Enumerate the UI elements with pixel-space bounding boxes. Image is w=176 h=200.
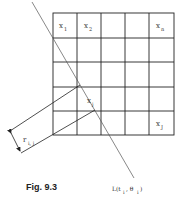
svg-text:): ) (140, 185, 142, 192)
cell-label-xj: x j (87, 97, 94, 108)
svg-text:i: i (137, 189, 139, 195)
beam-width-label: r i, j (23, 136, 35, 147)
svg-text:i, j: i, j (28, 140, 35, 147)
svg-text:L(t: L(t (112, 185, 121, 192)
pixel-grid (53, 13, 174, 135)
svg-text:x: x (87, 97, 91, 105)
svg-text:J: J (160, 124, 163, 131)
svg-text:1: 1 (64, 26, 67, 32)
svg-text:n: n (161, 26, 165, 32)
cell-label-xn: x n (156, 22, 165, 32)
svg-text:i: i (123, 189, 125, 195)
svg-text:x: x (84, 22, 88, 30)
figure-caption: Fig. 9.3 (26, 182, 57, 192)
beam-width-arrow (11, 133, 20, 151)
svg-text:r: r (23, 136, 27, 144)
cell-label-xJ: x J (156, 120, 163, 131)
beam-edge-upper (10, 85, 80, 131)
projection-ray (32, 2, 134, 178)
cell-label-x1: x 1 (59, 22, 67, 32)
svg-text:x: x (156, 22, 160, 30)
svg-text:x: x (59, 22, 63, 30)
svg-text:x: x (156, 120, 160, 128)
svg-text:2: 2 (89, 26, 92, 32)
ray-label: L(t i , θ i ) (112, 185, 142, 195)
svg-text:j: j (91, 101, 94, 108)
svg-text:, θ: , θ (126, 185, 134, 192)
cell-label-x2: x 2 (84, 22, 92, 32)
figure-diagram: x 1 x 2 x n x j x J r i, j L(t i , θ i )… (0, 0, 176, 200)
